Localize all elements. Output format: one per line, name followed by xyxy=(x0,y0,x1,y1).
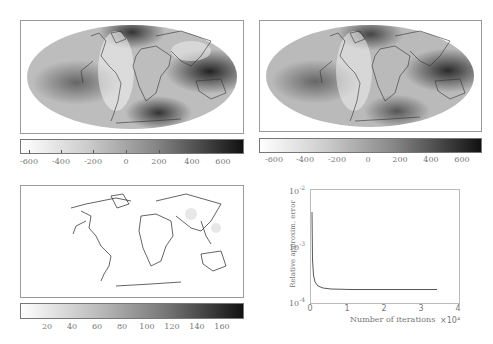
mollweide-map-graphic xyxy=(260,21,481,131)
colorbar-tick-label: 80 xyxy=(117,322,127,331)
colorbar-tick-label: 400 xyxy=(184,157,199,166)
colorbar-tick-label: 120 xyxy=(164,322,179,331)
colorbar-tick-label: -400 xyxy=(296,155,314,164)
colorbar-tick-mark xyxy=(93,150,94,153)
colorbar-tick-mark xyxy=(126,150,127,153)
x-tick-label: 1 xyxy=(344,304,349,313)
map-panel-top-left xyxy=(20,20,244,134)
x-tick-label: 0 xyxy=(307,304,312,313)
mollweide-map-graphic xyxy=(21,21,243,133)
colorbar-tick-label: -600 xyxy=(20,157,38,166)
colorbar-tick-label: 200 xyxy=(392,155,407,164)
colorbar-tick-label: 0 xyxy=(123,157,128,166)
x-axis-multiplier: ×10⁴ xyxy=(440,316,460,325)
colorbar-tick-label: 200 xyxy=(151,157,166,166)
x-tick-label: 4 xyxy=(455,304,460,313)
colorbar-tick-mark xyxy=(159,150,160,153)
colorbar-tick-label: 160 xyxy=(214,322,229,331)
colorbar-bottom-left xyxy=(20,303,244,319)
line-chart-convergence xyxy=(310,189,460,304)
map-panel-top-right xyxy=(259,20,482,132)
colorbar-tick-mark xyxy=(29,150,30,153)
colorbar-tick-label: 100 xyxy=(139,322,154,331)
colorbar-top-left xyxy=(20,139,244,154)
error-curve-graphic xyxy=(311,190,459,303)
world-map-graphic xyxy=(21,186,243,297)
colorbar-tick-label: 600 xyxy=(215,157,230,166)
map-panel-bottom-left xyxy=(20,185,244,298)
x-tick-label: 3 xyxy=(418,304,423,313)
colorbar-tick-label: 600 xyxy=(454,155,469,164)
colorbar-tick-label: 0 xyxy=(365,155,370,164)
x-axis-label: Number of iterations xyxy=(350,315,435,324)
colorbar-tick-label: -600 xyxy=(265,155,283,164)
y-axis-label: Relative approxim. error xyxy=(289,189,297,299)
colorbar-tick-label: -200 xyxy=(84,157,102,166)
colorbar-tick-mark xyxy=(61,150,62,153)
colorbar-tick-label: -400 xyxy=(52,157,70,166)
colorbar-tick-label: -200 xyxy=(328,155,346,164)
x-tick-label: 2 xyxy=(381,304,386,313)
colorbar-tick-label: 140 xyxy=(189,322,204,331)
colorbar-tick-label: 60 xyxy=(92,322,102,331)
colorbar-tick-label: 40 xyxy=(67,322,77,331)
colorbar-tick-label: 400 xyxy=(423,155,438,164)
colorbar-tick-label: 20 xyxy=(42,322,52,331)
colorbar-top-right xyxy=(259,138,482,153)
